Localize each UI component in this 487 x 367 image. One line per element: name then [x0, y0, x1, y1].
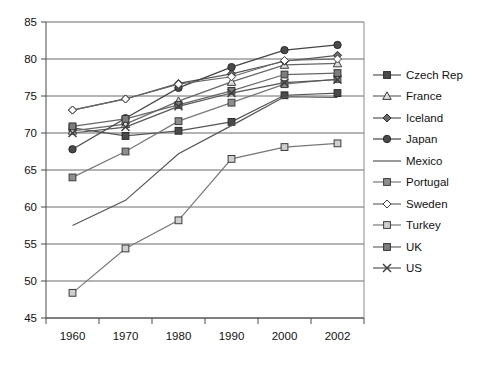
legend-label: France: [402, 90, 442, 102]
series-line: [73, 59, 338, 110]
legend-item-turkey[interactable]: Turkey: [372, 215, 487, 237]
data-point: [228, 63, 235, 70]
legend-label: Portugal: [402, 176, 449, 188]
data-point: [334, 41, 341, 48]
x-axis-tick-label: 1970: [113, 330, 139, 342]
legend-marker: [384, 71, 391, 78]
legend-marker: [383, 114, 391, 122]
data-point: [69, 174, 76, 181]
y-axis-tick-label: 85: [24, 16, 37, 28]
legend-marker-icon: [372, 89, 402, 103]
legend-marker-icon: [372, 132, 402, 146]
legend-label: US: [402, 262, 422, 274]
data-point: [334, 140, 341, 147]
legend-marker-icon: [372, 68, 402, 82]
data-point: [122, 116, 129, 123]
legend-item-mexico[interactable]: Mexico: [372, 150, 487, 172]
legend-label: Mexico: [402, 155, 442, 167]
y-axis-tick-label: 50: [24, 275, 37, 287]
legend-marker-icon: [372, 111, 402, 125]
series-line: [73, 143, 338, 292]
legend-item-france[interactable]: France: [372, 86, 487, 108]
chart-legend: Czech RepFranceIcelandJapanMexicoPortuga…: [372, 64, 487, 279]
data-point: [175, 127, 182, 134]
series-sweden: [69, 55, 342, 114]
legend-marker-icon: [372, 240, 402, 254]
line-chart: 4550556065707580851960197019801990200020…: [0, 0, 487, 367]
y-axis-tick-label: 45: [24, 312, 37, 324]
legend-marker: [384, 222, 391, 229]
legend-marker: [384, 179, 391, 186]
legend-label: Sweden: [402, 198, 448, 210]
legend-item-portugal[interactable]: Portugal: [372, 172, 487, 194]
data-point: [281, 56, 289, 64]
legend-item-uk[interactable]: UK: [372, 236, 487, 258]
data-point: [69, 146, 76, 153]
series-line: [73, 80, 338, 133]
data-point: [175, 217, 182, 224]
data-point: [281, 144, 288, 151]
y-axis-tick-label: 80: [24, 53, 37, 65]
y-axis-tick-label: 60: [24, 201, 37, 213]
data-point: [122, 133, 129, 140]
x-axis-tick-label: 1960: [60, 330, 86, 342]
legend-label: Japan: [402, 133, 437, 145]
data-point: [69, 289, 76, 296]
legend-label: Turkey: [402, 219, 441, 231]
series-turkey: [69, 140, 341, 296]
legend-label: Iceland: [402, 112, 443, 124]
legend-marker: [384, 243, 391, 250]
series-line: [73, 97, 338, 226]
x-axis-tick-label: 2002: [325, 330, 351, 342]
data-point: [122, 245, 129, 252]
x-axis-tick-label: 2000: [272, 330, 298, 342]
data-point: [334, 90, 341, 97]
legend-marker-icon: [372, 175, 402, 189]
series-mexico: [73, 97, 338, 226]
x-axis-tick-label: 1990: [219, 330, 245, 342]
data-point: [228, 156, 235, 163]
y-axis-tick-label: 55: [24, 238, 37, 250]
x-axis-tick-label: 1980: [166, 330, 192, 342]
legend-item-iceland[interactable]: Iceland: [372, 107, 487, 129]
y-axis-tick-label: 65: [24, 164, 37, 176]
y-axis-tick-label: 70: [24, 127, 37, 139]
legend-item-us[interactable]: US: [372, 258, 487, 280]
legend-marker: [383, 200, 391, 208]
legend-item-japan[interactable]: Japan: [372, 129, 487, 151]
legend-item-sweden[interactable]: Sweden: [372, 193, 487, 215]
data-point: [281, 71, 288, 78]
legend-marker-icon: [372, 154, 402, 168]
legend-marker-icon: [372, 261, 402, 275]
legend-marker: [383, 136, 390, 143]
data-point: [281, 46, 288, 53]
legend-label: Czech Rep: [402, 69, 463, 81]
legend-marker-icon: [372, 218, 402, 232]
legend-item-czech-rep[interactable]: Czech Rep: [372, 64, 487, 86]
data-point: [69, 106, 77, 114]
data-point: [122, 148, 129, 155]
legend-label: UK: [402, 241, 422, 253]
data-point: [175, 118, 182, 125]
legend-marker-icon: [372, 197, 402, 211]
data-point: [334, 70, 341, 77]
y-axis-tick-label: 75: [24, 90, 37, 102]
data-point: [228, 99, 235, 106]
data-point: [69, 123, 76, 130]
